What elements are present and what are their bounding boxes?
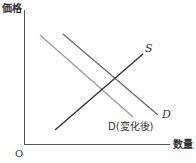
demand-after-curve <box>40 35 133 117</box>
supply-demand-chart: 価格 数量 O S D D(変化後) <box>0 0 196 163</box>
demand-curve <box>63 34 158 115</box>
demand-after-label: D(変化後) <box>108 120 154 132</box>
demand-label: D <box>161 108 171 121</box>
origin-label: O <box>15 148 23 159</box>
supply-label: S <box>145 42 153 55</box>
y-axis-label: 価格 <box>1 2 23 14</box>
x-axis-label: 数量 <box>173 138 193 150</box>
